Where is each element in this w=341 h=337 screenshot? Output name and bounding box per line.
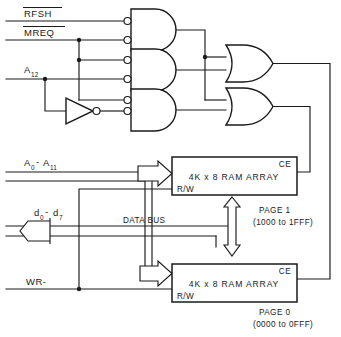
label-addr-a0: A bbox=[24, 157, 31, 168]
or-gate-2 bbox=[226, 88, 273, 125]
nand-gate-1 bbox=[124, 9, 176, 51]
junction-nand1-or1 bbox=[203, 55, 207, 59]
or-gate-1-body bbox=[226, 45, 273, 82]
nand-gate-2-input-bubble-bottom bbox=[124, 76, 131, 83]
ram-block-page1-page-label: PAGE 1 bbox=[259, 206, 290, 215]
label-data-d7: d bbox=[53, 207, 59, 218]
label-rfsh: RFSH bbox=[24, 8, 52, 19]
nand-gate-1-body bbox=[131, 9, 176, 51]
nand-gate-3-input-bubble-bottom bbox=[124, 108, 131, 115]
nand-gate-3 bbox=[124, 89, 176, 131]
label-addr-dash: - bbox=[36, 156, 40, 167]
label-addr-a11: A bbox=[43, 157, 50, 168]
ram-block-page1-ce-pin: CE bbox=[279, 160, 291, 169]
data-bus-arrowhead-left bbox=[20, 218, 50, 244]
or-gate-2-body bbox=[226, 88, 273, 125]
ram-block-page1: 4K x 8 RAM ARRAY CE R/W PAGE 1 (1000 to … bbox=[172, 157, 313, 227]
ram-block-page1-range-label: (1000 to 1FFF) bbox=[253, 218, 313, 227]
inverter-output-bubble bbox=[93, 108, 100, 115]
junction-mreq-nand2 bbox=[77, 58, 81, 62]
ram-block-page0-ce-pin: CE bbox=[279, 267, 291, 276]
label-addr-a0-sub: 0 bbox=[31, 164, 35, 171]
ram-block-page1-rw-pin: R/W bbox=[177, 185, 194, 194]
label-data-bus: DATA BUS bbox=[123, 216, 166, 225]
nand-gate-3-body bbox=[131, 89, 176, 131]
junction-mreq bbox=[77, 38, 81, 42]
label-mreq: MREQ bbox=[24, 27, 55, 38]
label-data-d0: d bbox=[34, 207, 40, 218]
label-addr-a11-sub: 11 bbox=[50, 164, 57, 171]
logic-diagram-canvas: 4K x 8 RAM ARRAY CE R/W PAGE 1 (1000 to … bbox=[0, 0, 341, 337]
ram-block-page0-range-label: (0000 to 0FFF) bbox=[253, 320, 313, 329]
ram-block-page1-title: 4K x 8 RAM ARRAY bbox=[189, 172, 279, 182]
wire-junctions bbox=[43, 38, 81, 81]
label-a12: A bbox=[24, 64, 31, 75]
nand-gate-3-input-bubble-top bbox=[124, 97, 131, 104]
gate-interconnect-wires bbox=[176, 30, 226, 110]
wire-nand1-out bbox=[176, 30, 205, 100]
wire-a12-to-inverter bbox=[45, 79, 66, 111]
nand-gate-1-input-bubble-bottom bbox=[124, 37, 131, 44]
label-wr: WR- bbox=[26, 276, 47, 287]
nand-gate-2 bbox=[124, 49, 176, 91]
or-gate-1 bbox=[226, 45, 273, 82]
ram-block-page0: 4K x 8 RAM ARRAY CE R/W PAGE 0 (0000 to … bbox=[172, 264, 313, 329]
nand-gate-1-input-bubble-top bbox=[124, 18, 131, 25]
label-data-dash: - bbox=[45, 206, 49, 217]
junction-a12 bbox=[43, 77, 47, 81]
ram-block-page0-page-label: PAGE 0 bbox=[259, 308, 290, 317]
label-a12-subscript: 12 bbox=[31, 71, 39, 78]
inverter-gate bbox=[66, 98, 100, 124]
ram-block-page0-title: 4K x 8 RAM ARRAY bbox=[189, 279, 279, 289]
bus-arrow-data-out bbox=[20, 218, 50, 244]
schematic-svg: 4K x 8 RAM ARRAY CE R/W PAGE 1 (1000 to … bbox=[0, 0, 341, 337]
nand-gate-2-input-bubble-top bbox=[124, 57, 131, 64]
nand-gate-2-body bbox=[131, 49, 176, 91]
label-data-d0-sub: 0 bbox=[40, 214, 44, 221]
inverter-body bbox=[66, 98, 93, 124]
bus-arrow-page1-address bbox=[138, 161, 172, 186]
label-data-d7-sub: 7 bbox=[59, 214, 63, 221]
ram-block-page0-rw-pin: R/W bbox=[177, 292, 194, 301]
